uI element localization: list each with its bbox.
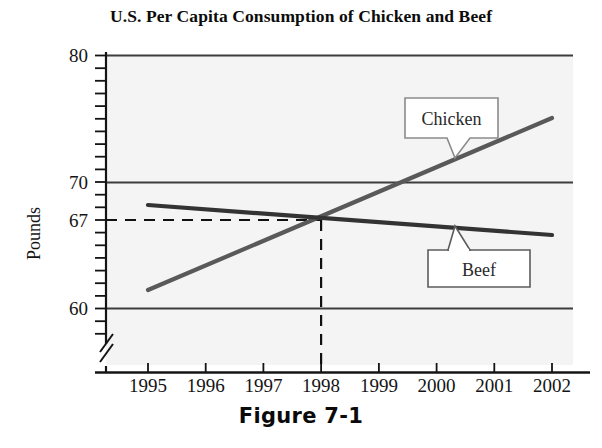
x-tick-label-1996: 1996 [187,375,225,396]
chart-plot: 80 70 67 60 Pounds 1995 1996 1997 1998 1… [0,0,602,400]
x-tick-label-2001: 2001 [475,375,513,396]
y-tick-label-70: 70 [69,172,88,193]
y-tick-label-80: 80 [69,45,88,66]
y-tick-label-67: 67 [69,210,88,231]
x-tick-label-1997: 1997 [244,375,282,396]
callout-beef-label: Beef [462,260,496,280]
y-axis-minor-ticks [95,56,106,334]
x-tick-label-1995: 1995 [129,375,167,396]
x-tick-label-1998: 1998 [302,375,340,396]
x-tick-label-2002: 2002 [533,375,571,396]
x-tick-label-2000: 2000 [418,375,456,396]
x-tick-label-1999: 1999 [360,375,398,396]
y-tick-label-60: 60 [69,298,88,319]
callout-chicken-label: Chicken [422,109,482,129]
figure-container: U.S. Per Capita Consumption of Chicken a… [0,0,602,448]
figure-caption: Figure 7-1 [0,404,602,428]
y-axis-title: Pounds [24,207,44,260]
